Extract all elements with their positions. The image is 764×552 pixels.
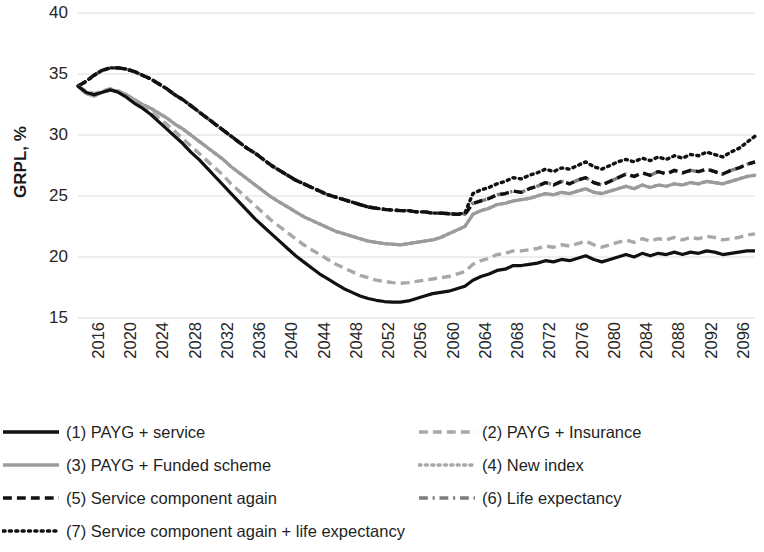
legend-label-series-3: (3) PAYG + Funded scheme — [66, 456, 271, 474]
x-axis-tick: 2052 — [378, 322, 398, 392]
chart-legend: (1) PAYG + service(3) PAYG + Funded sche… — [0, 415, 764, 552]
x-axis-tick: 2048 — [346, 322, 366, 392]
x-axis-tick: 2072 — [539, 322, 559, 392]
grpl-line-chart: GRPL, % 403530252015 2016202020242028203… — [0, 0, 764, 552]
legend-item-series-5[interactable]: (5) Service component again — [2, 483, 277, 513]
x-axis-tick: 2044 — [314, 322, 334, 392]
legend-item-series-3[interactable]: (3) PAYG + Funded scheme — [2, 450, 271, 480]
legend-label-series-1: (1) PAYG + service — [66, 423, 205, 441]
series-line — [78, 86, 755, 245]
legend-key-series-2 — [418, 425, 476, 439]
x-axis-tick: 2096 — [733, 322, 753, 392]
x-axis-tick: 2064 — [475, 322, 495, 392]
series-line — [78, 86, 755, 245]
legend-item-series-6[interactable]: (6) Life expectancy — [418, 483, 621, 513]
legend-key-series-4 — [418, 458, 476, 472]
x-axis-tick: 2040 — [281, 322, 301, 392]
x-axis-tick: 2020 — [120, 322, 140, 392]
x-axis-tick: 2036 — [249, 322, 269, 392]
legend-key-series-7 — [2, 524, 60, 538]
x-axis-tick: 2084 — [636, 322, 656, 392]
legend-key-series-3 — [2, 458, 60, 472]
legend-label-series-6: (6) Life expectancy — [482, 489, 621, 507]
legend-item-series-4[interactable]: (4) New index — [418, 450, 584, 480]
x-axis-tick: 2080 — [604, 322, 624, 392]
x-axis-tick-labels: 2016202020242028203220362040204420482052… — [78, 322, 756, 402]
legend-item-series-7[interactable]: (7) Service component again + life expec… — [2, 516, 405, 546]
x-axis-tick: 2068 — [507, 322, 527, 392]
x-axis-tick: 2032 — [217, 322, 237, 392]
legend-key-series-5 — [2, 491, 60, 505]
x-axis-tick: 2076 — [572, 322, 592, 392]
legend-label-series-5: (5) Service component again — [66, 489, 277, 507]
legend-key-series-6 — [418, 491, 476, 505]
x-axis-tick: 2028 — [185, 322, 205, 392]
legend-item-series-1[interactable]: (1) PAYG + service — [2, 417, 205, 447]
legend-label-series-4: (4) New index — [482, 456, 584, 474]
legend-label-series-7: (7) Service component again + life expec… — [66, 522, 405, 540]
series-line — [78, 86, 755, 302]
series-paths — [78, 68, 755, 302]
legend-item-series-2[interactable]: (2) PAYG + Insurance — [418, 417, 641, 447]
x-axis-tick: 2088 — [668, 322, 688, 392]
gridlines — [78, 13, 755, 318]
legend-key-series-1 — [2, 425, 60, 439]
x-axis-tick: 2092 — [701, 322, 721, 392]
x-axis-tick: 2016 — [88, 322, 108, 392]
x-axis-tick: 2024 — [152, 322, 172, 392]
legend-label-series-2: (2) PAYG + Insurance — [482, 423, 641, 441]
x-axis-tick: 2056 — [410, 322, 430, 392]
x-axis-tick: 2060 — [443, 322, 463, 392]
